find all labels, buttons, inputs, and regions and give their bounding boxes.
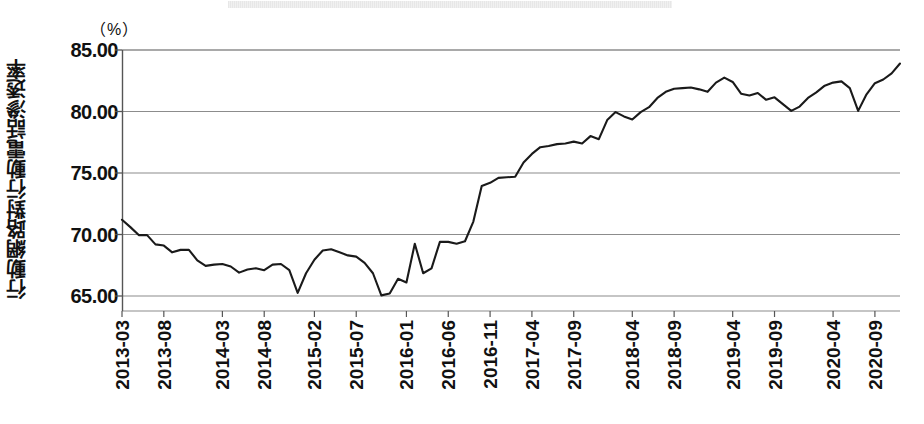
chart-figure: （%） 行動網路對行動電話滲透率 65.0070.0075.0080.0085.…	[0, 0, 924, 424]
x-tick-label: 2020-09	[865, 320, 887, 390]
x-tick-label: 2013-03	[112, 320, 134, 390]
x-tick-label: 2015-02	[304, 320, 326, 390]
x-tick-label: 2017-09	[564, 320, 586, 390]
x-tick-label: 2013-08	[154, 320, 176, 390]
x-tick-label: 2019-09	[765, 320, 787, 390]
x-tick-label: 2014-08	[254, 320, 276, 390]
x-tick-label: 2018-04	[622, 320, 644, 390]
x-tick-label: 2020-04	[823, 320, 845, 390]
x-axis-tick-labels: 2013-032013-082014-032014-082015-022015-…	[0, 0, 924, 424]
x-tick-label: 2014-03	[212, 320, 234, 390]
x-tick-label: 2016-01	[396, 320, 418, 390]
x-tick-label: 2017-04	[522, 320, 544, 390]
x-tick-label: 2016-06	[438, 320, 460, 390]
x-tick-label: 2019-04	[723, 320, 745, 390]
x-tick-label: 2016-11	[480, 320, 502, 389]
x-tick-label: 2015-07	[346, 320, 368, 390]
x-tick-label: 2018-09	[664, 320, 686, 390]
